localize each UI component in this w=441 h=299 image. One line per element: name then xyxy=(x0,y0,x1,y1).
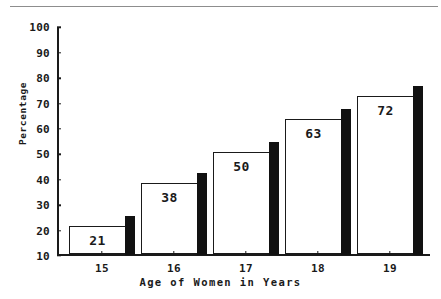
bar-age-19: 72 xyxy=(357,96,414,254)
y-tick-label: 50 xyxy=(36,148,57,161)
plot-area: 10 20 30 40 50 60 70 80 90 100 21 38 xyxy=(57,27,430,256)
x-tick-label: 18 xyxy=(311,262,325,275)
y-tick-mark xyxy=(57,255,61,256)
bar-age-17: 50 xyxy=(213,152,270,254)
x-tick-label: 16 xyxy=(167,262,181,275)
y-tick-label: 90 xyxy=(36,46,57,59)
y-tick-label: 30 xyxy=(36,199,57,212)
y-tick-label: 100 xyxy=(29,21,57,34)
y-tick-mark xyxy=(57,27,61,28)
x-tick-mark xyxy=(389,251,390,255)
y-tick-label: 20 xyxy=(36,224,57,237)
page-edge-rule xyxy=(10,6,438,7)
y-tick-mark xyxy=(57,204,61,205)
y-tick-mark xyxy=(57,128,61,129)
x-tick-label: 15 xyxy=(95,262,109,275)
x-tick-label: 17 xyxy=(239,262,253,275)
x-tick-mark xyxy=(317,251,318,255)
bar-side-face xyxy=(341,109,351,255)
bar-value-label: 21 xyxy=(70,233,125,248)
bar-side-face xyxy=(197,173,207,255)
x-axis-title: Age of Women in Years xyxy=(0,276,441,288)
y-tick-label: 60 xyxy=(36,123,57,136)
y-tick-mark xyxy=(57,179,61,180)
y-tick-mark xyxy=(57,77,61,78)
bar-chart-figure: Percentage 10 20 30 40 50 60 70 80 90 10… xyxy=(0,0,441,299)
x-tick-mark xyxy=(173,251,174,255)
y-tick-label: 70 xyxy=(36,97,57,110)
y-axis-title: Percentage xyxy=(17,54,28,174)
bar-side-face xyxy=(125,216,135,255)
bar-value-label: 72 xyxy=(358,103,413,118)
y-tick-label: 10 xyxy=(36,250,57,263)
bar-value-label: 38 xyxy=(142,190,197,205)
y-tick-label: 40 xyxy=(36,173,57,186)
x-tick-mark xyxy=(245,251,246,255)
x-axis-line xyxy=(57,254,430,256)
y-tick-mark xyxy=(57,230,61,231)
y-tick-mark xyxy=(57,52,61,53)
bar-age-18: 63 xyxy=(285,119,342,254)
y-tick-mark xyxy=(57,103,61,104)
bar-side-face xyxy=(413,86,423,255)
bar-side-face xyxy=(269,142,279,255)
x-tick-label: 19 xyxy=(383,262,397,275)
bar-age-16: 38 xyxy=(141,183,198,254)
bar-value-label: 50 xyxy=(214,159,269,174)
y-tick-label: 80 xyxy=(36,72,57,85)
bar-age-15: 21 xyxy=(69,226,126,254)
bar-value-label: 63 xyxy=(286,126,341,141)
y-axis-line xyxy=(57,27,59,256)
y-tick-mark xyxy=(57,154,61,155)
x-tick-mark xyxy=(101,251,102,255)
